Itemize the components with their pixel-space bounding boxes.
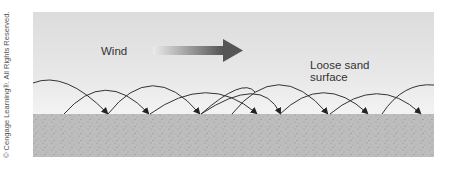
diagram-graphics [33,12,434,157]
surface-label-line2: surface [310,71,369,83]
saltation-diagram: Wind [33,12,434,157]
surface-label: Loose sand surface [310,59,369,83]
saltation-trajectories [33,80,434,114]
wind-arrow-icon [153,39,243,62]
copyright-credit: © Cengage Learning®. All Rights Reserved… [2,8,11,158]
surface-label-line1: Loose sand [310,59,369,71]
